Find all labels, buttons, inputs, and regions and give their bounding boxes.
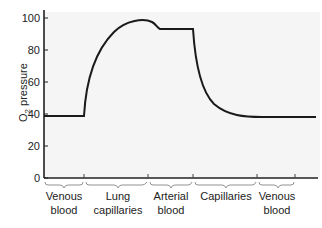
svg-text:blood: blood — [51, 204, 78, 216]
svg-text:blood: blood — [158, 204, 185, 216]
svg-text:Venous: Venous — [259, 190, 296, 202]
svg-text:Venous: Venous — [46, 190, 83, 202]
svg-text:100: 100 — [22, 12, 40, 24]
segment-labels: Venous blood Lung capillaries Arterial b… — [46, 190, 296, 216]
segment-braces — [45, 182, 294, 188]
svg-text:40: 40 — [28, 108, 40, 120]
svg-text:60: 60 — [28, 76, 40, 88]
svg-text:capillaries: capillaries — [94, 204, 143, 216]
o2-pressure-chart: O2 pressure 0 20 40 60 80 100 Venous — [0, 0, 322, 228]
svg-text:20: 20 — [28, 140, 40, 152]
svg-text:0: 0 — [34, 172, 40, 184]
svg-text:80: 80 — [28, 44, 40, 56]
svg-text:blood: blood — [264, 204, 291, 216]
svg-text:Arterial: Arterial — [154, 190, 189, 202]
svg-text:Lung: Lung — [106, 190, 130, 202]
svg-text:Capillaries: Capillaries — [200, 190, 252, 202]
